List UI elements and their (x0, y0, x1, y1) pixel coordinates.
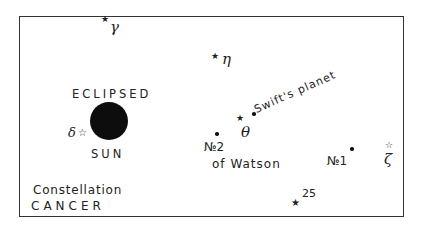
planet-dot-no-1 (350, 147, 354, 151)
star-icon-theta: ★ (236, 114, 244, 123)
star-label-gamma: γ (110, 20, 119, 35)
star-label-eta: η (222, 52, 231, 67)
star-label-zeta: ζ (384, 152, 392, 167)
planet-dot-watson-2 (215, 132, 219, 136)
star-label-theta: θ (241, 125, 250, 140)
star-icon-delta: ☆ (78, 128, 87, 138)
sun-label-eclipsed: ECLIPSED (72, 89, 151, 101)
planet-label-no-1: №1 (327, 155, 347, 167)
star-icon-eta: ★ (211, 52, 219, 61)
constellation-label-line2: CANCER (31, 200, 105, 212)
eclipsed-sun-disc (90, 102, 128, 140)
sun-label-sun: SUN (91, 149, 124, 161)
star-label-25: 25 (302, 188, 316, 199)
star-label-delta: δ (68, 126, 76, 139)
star-icon-25: ★ (291, 198, 300, 208)
planet-label-watson-2-name: of Watson (212, 158, 281, 170)
star-icon-gamma: ★ (101, 15, 109, 24)
star-icon-zeta: ☆ (385, 141, 393, 150)
planet-label-watson-2-number: №2 (204, 141, 224, 153)
constellation-label-line1: Constellation (33, 184, 122, 196)
